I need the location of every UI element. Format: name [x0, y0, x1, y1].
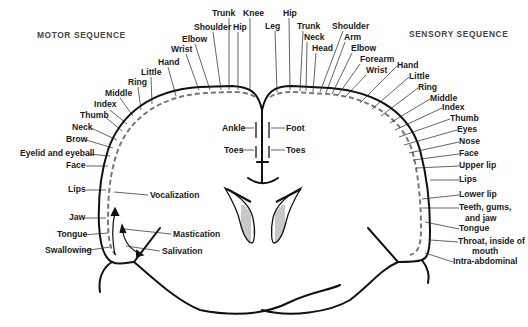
svg-text:Middle: Middle — [105, 88, 132, 98]
svg-text:Tongue: Tongue — [459, 223, 490, 233]
svg-text:Toes: Toes — [224, 145, 244, 155]
svg-text:Wrist: Wrist — [366, 65, 387, 75]
svg-text:Foot: Foot — [286, 123, 305, 133]
svg-text:Hand: Hand — [397, 60, 418, 70]
svg-text:Little: Little — [141, 67, 162, 77]
svg-text:Elbow: Elbow — [182, 34, 208, 44]
svg-text:Toes: Toes — [286, 145, 306, 155]
motor-sequence-title: MOTOR SEQUENCE — [37, 30, 126, 40]
svg-text:Teeth, gums,: Teeth, gums, — [459, 202, 511, 212]
svg-text:Mastication: Mastication — [173, 229, 220, 239]
svg-text:Neck: Neck — [72, 122, 93, 132]
svg-text:Head: Head — [312, 43, 333, 53]
sensory-sequence-title: SENSORY SEQUENCE — [409, 29, 508, 39]
svg-text:Face: Face — [459, 148, 479, 158]
homunculus-diagram: MOTOR SEQUENCE SENSORY SEQUENCE — [0, 0, 528, 327]
svg-text:Vocalization: Vocalization — [150, 190, 200, 200]
sensory-labels-top: Hip Leg Trunk Neck Head Shoulder Arm Elb… — [265, 8, 465, 130]
svg-text:Hip: Hip — [233, 22, 247, 32]
svg-text:Neck: Neck — [304, 32, 325, 42]
svg-text:Upper lip: Upper lip — [459, 160, 496, 170]
svg-text:Shoulder: Shoulder — [194, 22, 232, 32]
svg-text:Wrist: Wrist — [171, 44, 192, 54]
svg-text:Intra-abdominal: Intra-abdominal — [453, 256, 517, 266]
inner-labels: Ankle Toes Foot Toes — [222, 123, 306, 155]
svg-text:Ring: Ring — [418, 82, 437, 92]
motor-labels-top: Trunk Knee Hip Shoulder Elbow Wrist Hand… — [94, 8, 264, 124]
svg-text:Eyes: Eyes — [457, 124, 477, 134]
svg-text:Hand: Hand — [158, 57, 179, 67]
svg-text:Face: Face — [66, 160, 86, 170]
function-arrows — [111, 208, 143, 257]
svg-text:Eyelid and eyeball: Eyelid and eyeball — [20, 148, 95, 158]
svg-text:Nose: Nose — [459, 136, 480, 146]
svg-text:and jaw: and jaw — [465, 213, 497, 223]
svg-text:Elbow: Elbow — [351, 43, 377, 53]
motor-labels-side: Thumb Neck Brow Eyelid and eyeball Face … — [20, 110, 122, 255]
svg-text:Shoulder: Shoulder — [332, 21, 370, 31]
svg-text:Brow: Brow — [66, 134, 88, 144]
svg-text:Salivation: Salivation — [162, 246, 203, 256]
svg-text:Ankle: Ankle — [222, 123, 246, 133]
svg-text:mouth: mouth — [472, 246, 498, 256]
brain-outline — [99, 86, 430, 314]
svg-text:Lower lip: Lower lip — [459, 189, 497, 199]
svg-text:Swallowing: Swallowing — [45, 245, 92, 255]
svg-text:Throat, inside of: Throat, inside of — [458, 236, 525, 246]
svg-text:Leg: Leg — [265, 21, 280, 31]
svg-text:Thumb: Thumb — [450, 113, 479, 123]
svg-text:Trunk: Trunk — [297, 21, 321, 31]
svg-text:Arm: Arm — [344, 32, 362, 42]
svg-text:Index: Index — [442, 102, 465, 112]
svg-text:Little: Little — [409, 71, 430, 81]
svg-text:Knee: Knee — [243, 8, 264, 18]
svg-text:Hip: Hip — [283, 8, 297, 18]
svg-text:Lips: Lips — [459, 174, 477, 184]
svg-text:Tongue: Tongue — [57, 229, 88, 239]
svg-text:Trunk: Trunk — [212, 8, 236, 18]
svg-text:Lips: Lips — [68, 184, 86, 194]
svg-text:Ring: Ring — [128, 77, 147, 87]
svg-text:Index: Index — [94, 99, 117, 109]
svg-text:Forearm: Forearm — [360, 54, 395, 64]
sensory-labels-side: Thumb Eyes Nose Face Upper lip Lips Lowe… — [399, 113, 525, 266]
svg-text:Thumb: Thumb — [80, 110, 109, 120]
ventricles — [225, 188, 301, 243]
sensory-cortex-band — [270, 92, 421, 255]
svg-text:Jaw: Jaw — [69, 212, 86, 222]
